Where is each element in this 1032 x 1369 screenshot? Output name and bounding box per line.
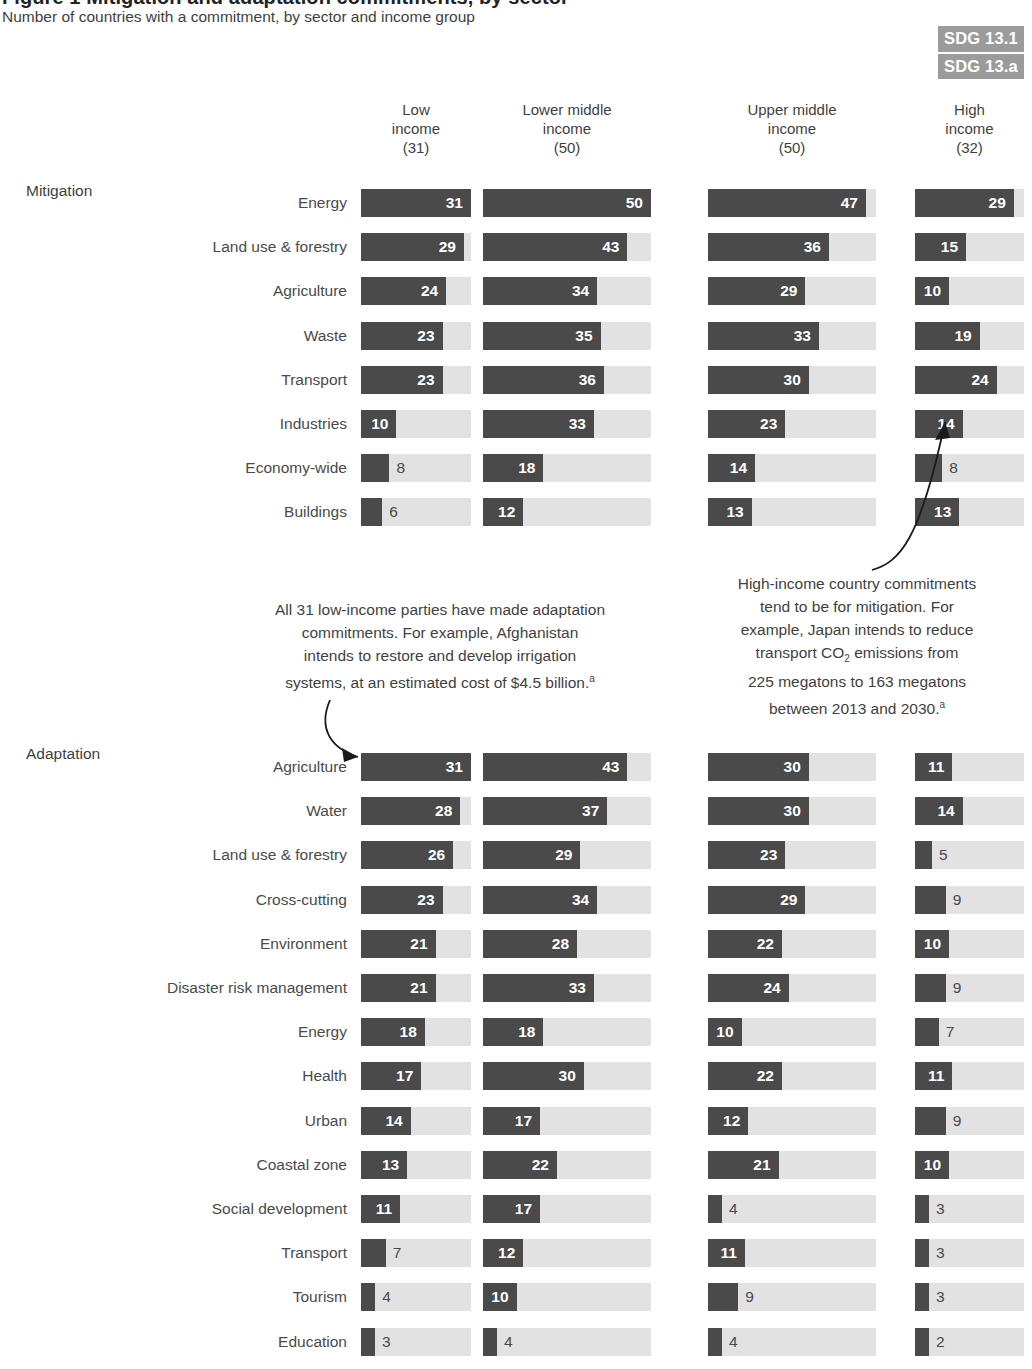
bar-track: 43: [483, 233, 651, 261]
row-label-environment: Environment: [0, 930, 347, 958]
bar-track: 10: [483, 1283, 651, 1311]
bar-value: 15: [915, 233, 958, 261]
bar-track: 17: [483, 1195, 651, 1223]
bar-value: 14: [915, 797, 955, 825]
bar-value: 29: [361, 233, 456, 261]
bar-value: 31: [361, 753, 463, 781]
bar-track: 18: [483, 1018, 651, 1046]
bar-track: 14: [915, 797, 1024, 825]
bar-value: 5: [939, 841, 948, 869]
bar-track: 47: [708, 189, 876, 217]
bar-track: 29: [915, 189, 1024, 217]
bar-track: 50: [483, 189, 651, 217]
bar-track: 10: [915, 277, 1024, 305]
row-label-energy: Energy: [0, 1018, 347, 1046]
bar-track: 9: [915, 886, 1024, 914]
bar-value: 22: [483, 1151, 549, 1179]
bar-track: 11: [708, 1239, 876, 1267]
bar-cross-cutting-high-income: [915, 886, 946, 914]
bar-value: 28: [361, 797, 452, 825]
bar-value: 4: [729, 1195, 738, 1223]
row-label-land-use-forestry: Land use & forestry: [0, 233, 347, 261]
bar-value: 4: [382, 1283, 391, 1311]
bar-track: 13: [915, 498, 1024, 526]
bar-value: 10: [915, 1151, 941, 1179]
bar-track: 22: [708, 1062, 876, 1090]
bar-value: 9: [953, 886, 962, 914]
bar-track: 28: [361, 797, 471, 825]
bar-track: 22: [708, 930, 876, 958]
bar-value: 36: [483, 366, 596, 394]
bar-value: 24: [708, 974, 781, 1002]
bar-track: 14: [915, 410, 1024, 438]
bar-track: 29: [361, 233, 471, 261]
bar-track: 23: [361, 366, 471, 394]
bar-track: 34: [483, 886, 651, 914]
column-header-line-3: (32): [855, 138, 1032, 157]
bar-social-development-upper-middle-income: [708, 1195, 722, 1223]
bar-value: 3: [936, 1195, 945, 1223]
row-label-water: Water: [0, 797, 347, 825]
row-label-disaster-risk-management: Disaster risk management: [0, 974, 347, 1002]
bar-track: 12: [708, 1107, 876, 1135]
bar-value: 11: [708, 1239, 737, 1267]
row-label-land-use-forestry: Land use & forestry: [0, 841, 347, 869]
bar-transport-low-income: [361, 1239, 386, 1267]
bar-track: 14: [361, 1107, 471, 1135]
sdg-badge-group: SDG 13.1 SDG 13.a: [938, 26, 1024, 79]
row-label-transport: Transport: [0, 1239, 347, 1267]
bar-track: 17: [361, 1062, 471, 1090]
row-label-transport: Transport: [0, 366, 347, 394]
bar-tourism-upper-middle-income: [708, 1283, 738, 1311]
row-label-agriculture: Agriculture: [0, 277, 347, 305]
bar-value: 14: [708, 454, 747, 482]
bar-value: 12: [483, 1239, 515, 1267]
bar-urban-high-income: [915, 1107, 946, 1135]
bar-value: 6: [389, 498, 398, 526]
bar-track: 23: [708, 841, 876, 869]
row-label-coastal-zone: Coastal zone: [0, 1151, 347, 1179]
bar-value: 21: [708, 1151, 771, 1179]
bar-track: 26: [361, 841, 471, 869]
bar-education-lower-middle-income: [483, 1328, 497, 1356]
bar-value: 10: [708, 1018, 734, 1046]
bar-social-development-high-income: [915, 1195, 929, 1223]
column-header-line-1: High: [855, 100, 1032, 119]
bar-tourism-high-income: [915, 1283, 929, 1311]
bar-disaster-risk-management-high-income: [915, 974, 946, 1002]
bar-value: 10: [483, 1283, 509, 1311]
bar-track: 29: [708, 277, 876, 305]
bar-value: 28: [483, 930, 569, 958]
row-label-agriculture: Agriculture: [0, 753, 347, 781]
bar-track: 5: [915, 841, 1024, 869]
bar-track: 10: [708, 1018, 876, 1046]
bar-track: 15: [915, 233, 1024, 261]
bar-transport-high-income: [915, 1239, 929, 1267]
bar-value: 30: [708, 797, 801, 825]
bar-value: 23: [708, 410, 777, 438]
bar-value: 24: [361, 277, 438, 305]
bar-track: 34: [483, 277, 651, 305]
bar-track: 30: [483, 1062, 651, 1090]
bar-track: 11: [361, 1195, 471, 1223]
bar-value: 11: [361, 1195, 392, 1223]
annotation-high-line-5: 225 megatons to 163 megatons: [748, 673, 966, 690]
bar-track: 28: [483, 930, 651, 958]
annotation-high-line-6: between 2013 and 2030.: [769, 700, 940, 717]
bar-value: 43: [483, 233, 619, 261]
bar-value: 8: [949, 454, 958, 482]
bar-value: 19: [915, 322, 972, 350]
bar-track: 13: [708, 498, 876, 526]
bar-track: 43: [483, 753, 651, 781]
bar-value: 11: [915, 1062, 944, 1090]
bar-value: 18: [483, 1018, 535, 1046]
bar-track: 3: [915, 1195, 1024, 1223]
bar-value: 10: [915, 930, 941, 958]
bar-track: 22: [483, 1151, 651, 1179]
annotation-high-line-4b: emissions from: [850, 644, 959, 661]
bar-value: 13: [708, 498, 744, 526]
bar-track: 8: [915, 454, 1024, 482]
bar-value: 23: [361, 366, 435, 394]
bar-value: 18: [483, 454, 535, 482]
bar-economy-wide-low-income: [361, 454, 389, 482]
